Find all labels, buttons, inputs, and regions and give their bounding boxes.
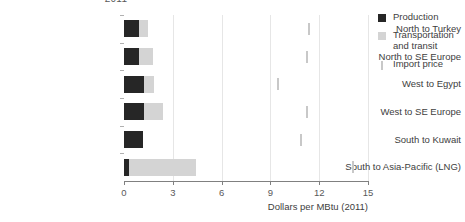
category-label: South to Asia-Pacific (LNG) <box>345 162 461 172</box>
x-axis-tick <box>173 181 174 185</box>
x-axis-tick-label: 0 <box>121 187 126 198</box>
category-label: West to SE Europe <box>380 107 461 117</box>
bar-segment-transportation <box>139 20 147 37</box>
x-axis-tick-label: 3 <box>170 187 175 198</box>
y-axis-tick <box>120 43 124 44</box>
x-axis-tick-label: 6 <box>219 187 224 198</box>
bar-segment-production <box>124 48 139 65</box>
bar-segment-production <box>124 103 144 120</box>
chart-container: 2011 Dollars per MBtu (2011) Production … <box>0 0 465 222</box>
x-axis-tick <box>368 181 369 185</box>
bar-segment-transportation <box>144 76 154 93</box>
import-price-marker <box>306 51 308 63</box>
bar-segment-production <box>124 76 144 93</box>
import-price-marker <box>300 134 302 146</box>
category-label: West to Egypt <box>402 79 461 89</box>
gridline <box>222 15 223 181</box>
x-axis-tick-label: 9 <box>268 187 273 198</box>
x-axis-tick <box>319 181 320 185</box>
y-axis-tick <box>120 126 124 127</box>
y-axis-tick <box>120 98 124 99</box>
category-label: North to SE Europe <box>379 52 461 62</box>
legend-item-production: Production <box>378 12 465 23</box>
bar-segment-transportation <box>144 103 163 120</box>
import-price-marker <box>308 23 310 35</box>
production-swatch-icon <box>378 14 386 22</box>
y-axis-tick <box>120 15 124 16</box>
import-price-marker <box>352 161 354 173</box>
x-axis-title: Dollars per MBtu (2011) <box>268 201 368 212</box>
category-label: North to Turkey <box>396 24 461 34</box>
bar-segment-production <box>124 131 143 148</box>
import-price-marker <box>277 78 279 90</box>
import-price-marker <box>306 106 308 118</box>
chart-title: 2011 <box>0 0 232 4</box>
x-axis-tick <box>124 181 125 185</box>
y-axis-tick <box>120 153 124 154</box>
transportation-swatch-icon <box>378 32 386 40</box>
x-axis-line <box>124 181 369 182</box>
gridline <box>368 15 369 181</box>
gridline <box>319 15 320 181</box>
bar-segment-transportation <box>129 159 196 176</box>
gridline <box>173 15 174 181</box>
x-axis-tick-label: 15 <box>363 187 374 198</box>
bar-segment-production <box>124 20 139 37</box>
x-axis-tick <box>270 181 271 185</box>
chart-legend: Production Transportation and transit Im… <box>378 12 465 77</box>
plot-area <box>124 15 368 181</box>
y-axis-tick <box>120 70 124 71</box>
import-price-marker-icon <box>378 61 386 70</box>
legend-label-production: Production <box>393 12 438 23</box>
x-axis-tick <box>222 181 223 185</box>
gridline <box>270 15 271 181</box>
x-axis-tick-label: 12 <box>314 187 325 198</box>
category-label: South to Kuwait <box>394 135 461 145</box>
bar-segment-transportation <box>139 48 153 65</box>
